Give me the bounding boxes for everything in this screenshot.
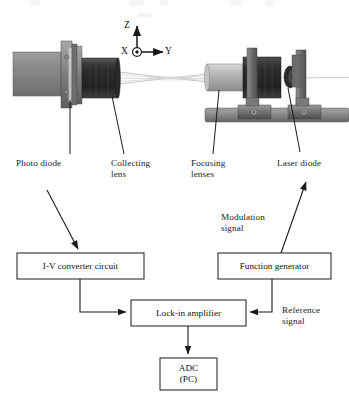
label-collecting-lens: Collecting lens [111,158,171,180]
axis-label-y: Y [165,46,172,56]
arrow-iv-to-lockin [80,279,126,312]
label-focusing-lenses-line2: lenses [191,169,214,179]
label-modulation-signal: Modulation signal [221,212,285,234]
arrow-photodiode-to-iv [47,190,78,249]
label-reference-signal-line1: Reference [282,305,320,315]
schematic-drawing [0,0,349,399]
label-focusing-lenses-line1: Focusing [191,158,226,168]
label-modulation-signal-line2: signal [221,223,244,233]
block-label-adc-pc-line2: (PC) [180,374,197,385]
arrow-funcgen-to-lockin [250,279,272,312]
block-label-adc-pc-line1: ADC [179,363,198,374]
block-label-lock-in-amplifier: Lock-in amplifier [131,300,246,326]
label-collecting-lens-line2: lens [111,169,126,179]
block-label-adc-pc: ADC (PC) [160,358,217,390]
axis-label-x: X [121,46,128,56]
label-focusing-lenses: Focusing lenses [191,158,249,180]
axis-label-z: Z [124,20,130,30]
label-reference-signal-line2: signal [282,316,305,326]
label-photo-diode: Photo diode [16,158,61,169]
block-label-iv-converter: I-V converter circuit [17,253,144,279]
laser-source-assembly [204,48,349,122]
label-laser-diode: Laser diode [277,158,321,169]
label-modulation-signal-line1: Modulation [221,212,265,222]
block-label-function-generator: Function generator [218,253,331,279]
coordinate-axes [133,26,163,56]
leader-collecting-lens [112,96,124,154]
photodiode-assembly [13,41,120,108]
figure-canvas: Z Y X Photo diode Collecting lens Focusi… [0,0,349,399]
label-collecting-lens-line1: Collecting [111,158,150,168]
label-reference-signal: Reference signal [282,305,346,327]
